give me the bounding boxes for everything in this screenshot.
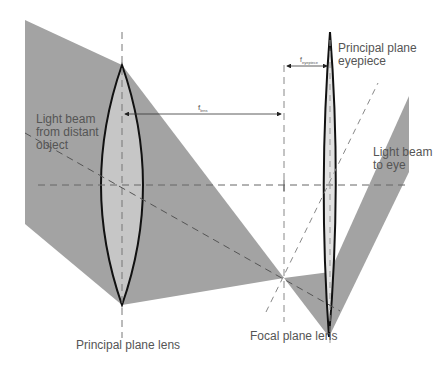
label-principal-plane-lens: Principal plane lens [76,338,180,352]
incoming-light-beam [25,20,284,305]
label-focal-plane-lens: Focal plane lens [250,329,337,343]
label-light-beam-out: Light beam to eye [373,145,436,172]
outgoing-light-beam [329,96,409,337]
diverging-beam-to-eyepiece [284,272,330,337]
telescope-ray-diagram: flens feyepiece Light beam from distant … [0,0,440,369]
label-principal-plane-eyepiece: Principal plane eyepiece [338,41,420,68]
f-lens-label: flens [198,103,208,113]
f-eyepiece-label: feyepiece [300,56,319,65]
